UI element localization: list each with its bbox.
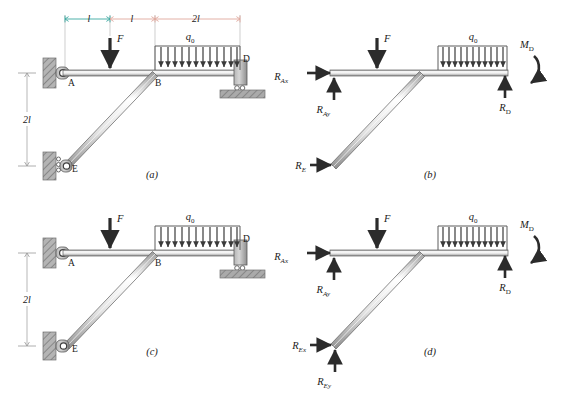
force-F-label-b: F: [383, 33, 391, 44]
support-A-wall: [43, 58, 56, 88]
roller-D-1: [235, 86, 240, 91]
force-F-label: F: [116, 33, 124, 44]
wall-hatch-A-c: [43, 238, 56, 268]
wall-hatch-A: [43, 58, 56, 88]
dim-label-l1: l: [88, 13, 91, 24]
force-F-label-c: F: [116, 213, 124, 224]
roller-D-2: [240, 86, 245, 91]
point-label-A-a: A: [68, 78, 75, 88]
roller-D-2-c: [240, 266, 245, 271]
dim-label-2l-vertical: 2l: [23, 114, 31, 125]
point-label-E-a: E: [72, 164, 78, 174]
force-F-label-d: F: [383, 213, 391, 224]
ground-base-D: [220, 90, 265, 98]
point-label-B-c: B: [155, 258, 161, 268]
engineering-figure: l l 2l 2l: [0, 0, 566, 401]
panel-caption-b: (b): [424, 169, 437, 181]
point-label-D-a: D: [243, 54, 250, 64]
pin-hole-E: [63, 163, 69, 169]
dim-label-2l-top: 2l: [192, 13, 200, 24]
dim-label-l2: l: [131, 13, 134, 24]
point-label-D-c: D: [243, 234, 250, 244]
wall-hatch-E: [43, 152, 56, 180]
figure-container: l l 2l 2l: [0, 0, 566, 401]
point-label-E-c: E: [72, 344, 78, 354]
roller-D-1-c: [235, 266, 240, 271]
point-label-B-a: B: [155, 78, 161, 88]
ground-base-D-c: [220, 270, 265, 278]
panel-caption-c: (c): [146, 346, 158, 358]
panel-caption-d: (d): [424, 346, 437, 358]
figure-background: [0, 0, 566, 401]
roller-E-1: [57, 157, 61, 161]
wall-hatch-E-c: [43, 332, 56, 360]
pin-hole-E-c: [60, 343, 66, 349]
point-label-A-c: A: [68, 258, 75, 268]
dim-label-2l-vertical-c: 2l: [23, 294, 31, 305]
panel-caption-a: (a): [146, 169, 159, 181]
